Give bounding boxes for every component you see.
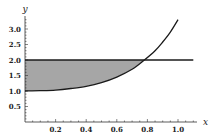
y-tick-label: 2.5 bbox=[9, 40, 21, 49]
x-tick-label: 0.2 bbox=[50, 125, 62, 134]
x-tick-label: 0.6 bbox=[111, 125, 123, 134]
y-axis-label: y bbox=[21, 4, 28, 14]
x-tick-label: 1.0 bbox=[172, 125, 184, 134]
chart: 0.20.40.60.81.00.51.01.52.02.53.0xy bbox=[0, 0, 215, 138]
y-tick-label: 3.0 bbox=[9, 25, 21, 34]
x-tick-label: 0.4 bbox=[80, 125, 92, 134]
y-tick-label: 2.0 bbox=[9, 56, 21, 65]
x-tick-label: 0.8 bbox=[141, 125, 153, 134]
x-axis-label: x bbox=[203, 117, 208, 127]
y-tick-label: 0.5 bbox=[9, 102, 21, 111]
y-tick-label: 1.0 bbox=[9, 87, 21, 96]
y-tick-label: 1.5 bbox=[9, 71, 21, 80]
